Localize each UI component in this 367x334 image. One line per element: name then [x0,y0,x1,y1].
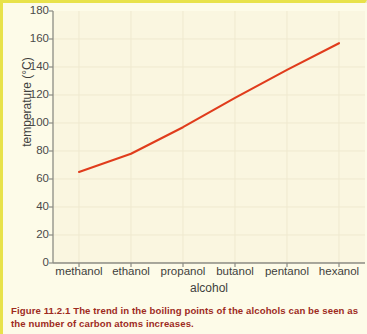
figure-number: Figure 11.2.1 [11,305,70,316]
figure-caption: Figure 11.2.1 The trend in the boiling p… [11,304,360,330]
x-axis-title: alcohol [53,281,365,295]
x-axis-tick-label: methanol [55,265,102,277]
figure-container: temperature (°C) 02040608010012014016018… [0,0,367,334]
x-axis-tick-label: pentanol [265,265,309,277]
chart-region: temperature (°C) 02040608010012014016018… [3,3,367,299]
x-axis-tick-labels: methanolethanolpropanolbutanolpentanolhe… [53,265,365,281]
x-axis-tick-label: propanol [161,265,206,277]
x-axis-tick-label: ethanol [112,265,150,277]
axis-lines [3,3,367,299]
x-axis-tick-label: hexanol [319,265,359,277]
x-axis-tick-label: butanol [216,265,254,277]
figure-caption-bar: Figure 11.2.1 The trend in the boiling p… [3,299,367,334]
